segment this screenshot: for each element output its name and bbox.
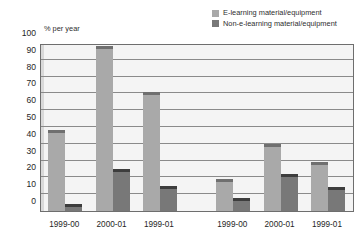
bar-non-e-learning[interactable] xyxy=(160,186,177,211)
bar-non-e-learning[interactable] xyxy=(65,204,82,211)
x-tick-label: 1999-00 xyxy=(217,220,247,229)
legend-item-e-learning: E-learning material/equipment xyxy=(212,8,337,19)
bar-e-learning[interactable] xyxy=(48,130,65,211)
legend-item-non-e-learning: Non-e-learning material/equipment xyxy=(212,19,337,30)
x-tick-label: 1999-00 xyxy=(49,220,79,229)
bar-body xyxy=(143,95,160,211)
y-axis-caption: % per year xyxy=(44,24,80,33)
legend-label-e-learning: E-learning material/equipment xyxy=(223,8,322,19)
bar-body xyxy=(65,207,82,211)
y-tick-100: 100 xyxy=(22,28,36,38)
y-tick-20: 20 xyxy=(26,162,36,172)
bar-body xyxy=(311,165,328,211)
y-tick-50: 50 xyxy=(26,112,36,122)
x-tick-label: 2000-01 xyxy=(97,220,127,229)
legend-swatch-e-learning xyxy=(212,10,219,17)
x-axis-tick-labels: 1999-002000-011999-011999-002000-011999-… xyxy=(40,220,354,234)
bar-body xyxy=(264,147,281,211)
x-tick-label: 1999-01 xyxy=(312,220,342,229)
bar-non-e-learning[interactable] xyxy=(328,187,345,211)
y-tick-80: 80 xyxy=(26,62,36,72)
y-tick-70: 70 xyxy=(26,78,36,88)
bar-body xyxy=(281,177,298,211)
bar-body xyxy=(113,172,130,211)
bar-non-e-learning[interactable] xyxy=(113,169,130,211)
bar-non-e-learning[interactable] xyxy=(233,198,250,211)
bar-body xyxy=(328,190,345,211)
legend-label-non-e-learning: Non-e-learning material/equipment xyxy=(223,19,337,30)
bar-group xyxy=(311,45,350,211)
bar-body xyxy=(216,182,233,211)
bar-group xyxy=(143,45,182,211)
bar-group xyxy=(96,45,135,211)
chart-legend: E-learning material/equipment Non-e-lear… xyxy=(212,8,337,29)
bar-e-learning[interactable] xyxy=(143,92,160,211)
bar-body xyxy=(48,133,65,211)
y-tick-40: 40 xyxy=(26,129,36,139)
bar-e-learning[interactable] xyxy=(96,46,113,211)
chart-plot-area: 0102030405060708090100 xyxy=(40,44,354,212)
bar-body xyxy=(233,201,250,211)
chart-bars xyxy=(44,45,352,211)
bar-non-e-learning[interactable] xyxy=(281,174,298,211)
bar-group xyxy=(48,45,87,211)
bar-body xyxy=(160,189,177,211)
legend-swatch-non-e-learning xyxy=(212,20,219,27)
y-tick-60: 60 xyxy=(26,95,36,105)
y-tick-0: 0 xyxy=(31,196,36,206)
bar-group xyxy=(216,45,255,211)
bar-group xyxy=(264,45,303,211)
x-tick-label: 2000-01 xyxy=(265,220,295,229)
bar-e-learning[interactable] xyxy=(264,144,281,211)
bar-e-learning[interactable] xyxy=(311,162,328,211)
bar-body xyxy=(96,49,113,211)
y-tick-30: 30 xyxy=(26,146,36,156)
chart-plot-wrapper: 0102030405060708090100 xyxy=(40,44,354,212)
y-tick-10: 10 xyxy=(26,179,36,189)
x-tick-label: 1999-01 xyxy=(144,220,174,229)
bar-e-learning[interactable] xyxy=(216,179,233,211)
y-tick-90: 90 xyxy=(26,45,36,55)
